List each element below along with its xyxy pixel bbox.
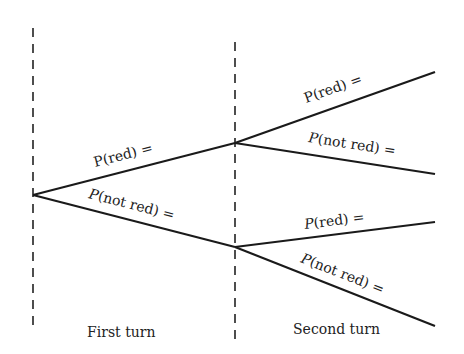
label-second-not-red-after-red: P(not red) = [307, 129, 397, 158]
caption-second-turn: Second turn [293, 321, 380, 337]
probability-tree-diagram: P(red) = P(not red) = P(red) = P(not red… [0, 0, 464, 354]
label-first-not-red: P(not red) = [86, 185, 176, 223]
label-second-red-after-not-red: P(red) = [302, 209, 365, 232]
caption-first-turn: First turn [87, 324, 156, 340]
branch-second-not-red-after-not-red [235, 247, 435, 326]
